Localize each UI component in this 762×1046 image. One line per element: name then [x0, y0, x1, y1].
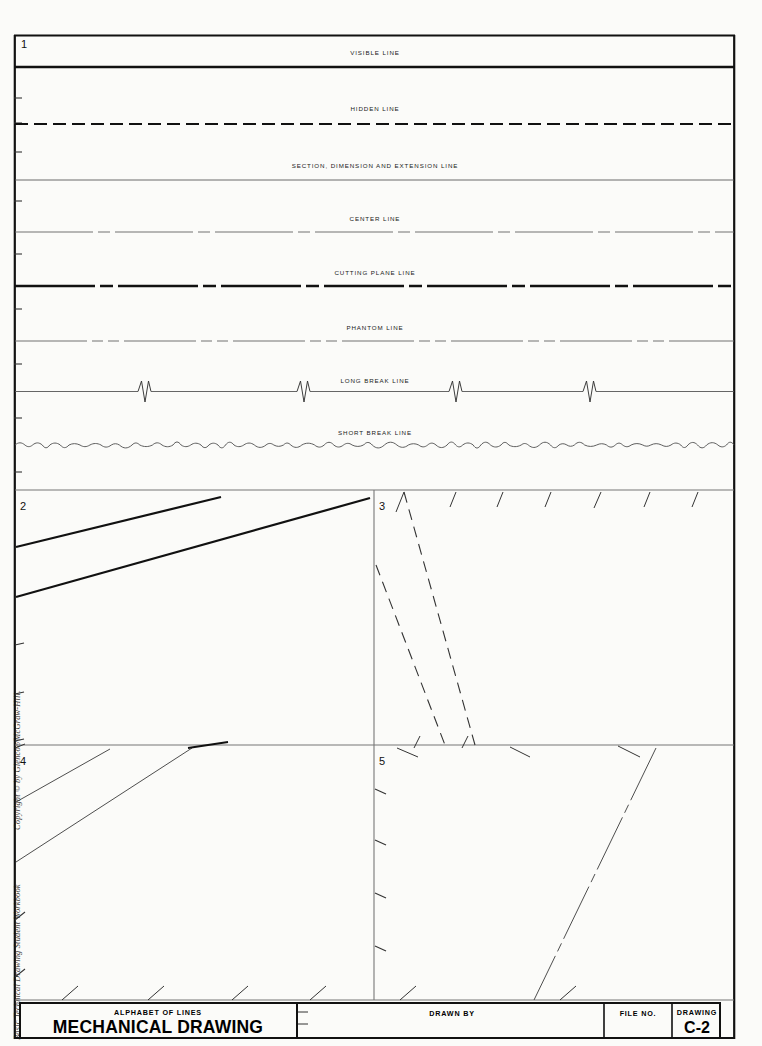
label-hidden-line: HIDDEN LINE	[350, 105, 399, 112]
alphabet-of-lines-panel: 1 VISIBLE LINE HIDDEN LINE SECTION, DIME…	[14, 38, 734, 490]
title-block-ticks	[298, 1012, 308, 1024]
subject-label: ALPHABET OF LINES	[114, 1008, 202, 1017]
label-long-break-line: LONG BREAK LINE	[340, 377, 409, 384]
course-label: MECHANICAL DRAWING	[53, 1017, 263, 1037]
box-2-work	[15, 497, 370, 741]
drawn-by-label: DRAWN BY	[429, 1009, 475, 1018]
file-no-label: FILE NO.	[620, 1009, 657, 1018]
worksheet-page: Copyright © by Glencoe/McGraw-Hill. Basi…	[0, 0, 762, 1046]
drawing-sheet: 1 VISIBLE LINE HIDDEN LINE SECTION, DIME…	[0, 0, 762, 1046]
line-sample-short-break	[15, 442, 734, 448]
box-number-3: 3	[379, 500, 385, 512]
box-number-1: 1	[21, 38, 27, 50]
line-sample-long-break	[15, 381, 734, 402]
label-section-line: SECTION, DIMENSION AND EXTENSION LINE	[292, 162, 459, 169]
drawing-label: DRAWING	[677, 1008, 717, 1017]
practice-boxes: 2 3 4 5	[15, 490, 734, 1000]
label-short-break-line: SHORT BREAK LINE	[338, 429, 412, 436]
label-center-line: CENTER LINE	[350, 215, 401, 222]
label-phantom-line: PHANTOM LINE	[346, 324, 403, 331]
box-number-4: 4	[20, 755, 26, 767]
title-block: ALPHABET OF LINES MECHANICAL DRAWING DRA…	[20, 1003, 720, 1038]
drawing-number: C-2	[684, 1019, 710, 1036]
box-number-2: 2	[20, 500, 26, 512]
box-5-work	[375, 736, 656, 1000]
label-visible-line: VISIBLE LINE	[350, 49, 400, 56]
label-cutting-plane-line: CUTTING PLANE LINE	[334, 269, 415, 276]
box-3-work	[376, 492, 698, 745]
box-4-work	[15, 742, 326, 1000]
box-number-5: 5	[379, 755, 385, 767]
